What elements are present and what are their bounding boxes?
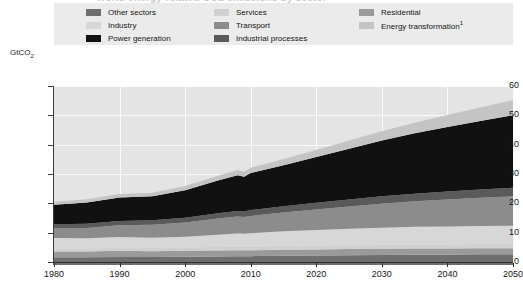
y-tick-label-10: 10 bbox=[475, 227, 519, 237]
x-tick-label-2040: 2040 bbox=[437, 269, 457, 279]
x-tick-2000 bbox=[185, 263, 186, 267]
y-tick-20 bbox=[48, 203, 54, 204]
y-tick-40 bbox=[48, 145, 54, 146]
legend-item-industrial_processes[interactable]: Industrial processes bbox=[214, 32, 307, 45]
legend-column-2: ServicesTransportIndustrial processes bbox=[214, 6, 307, 45]
y-tick-label-60: 60 bbox=[475, 80, 519, 90]
legend-item-residential[interactable]: Residential bbox=[359, 6, 463, 19]
legend-label-services: Services bbox=[236, 8, 267, 17]
legend-item-power_generation[interactable]: Power generation bbox=[86, 32, 171, 45]
y-tick-30 bbox=[48, 174, 54, 175]
y-tick-label-20: 20 bbox=[475, 197, 519, 207]
legend-item-energy_transformation[interactable]: Energy transformation1 bbox=[359, 19, 463, 32]
x-tick-2010 bbox=[251, 263, 252, 267]
legend-label-power_generation: Power generation bbox=[108, 34, 171, 43]
legend-swatch-transport bbox=[214, 22, 229, 29]
legend-label-residential: Residential bbox=[381, 8, 421, 17]
y-tick-10 bbox=[48, 233, 54, 234]
x-tick-label-2050: 2050 bbox=[503, 269, 523, 279]
y-tick-label-40: 40 bbox=[475, 139, 519, 149]
x-tick-label-2020: 2020 bbox=[306, 269, 326, 279]
y-axis-title-subscript: 2 bbox=[30, 53, 33, 59]
legend-swatch-residential bbox=[359, 9, 374, 16]
legend-label-other_sectors: Other sectors bbox=[108, 8, 156, 17]
y-tick-label-50: 50 bbox=[475, 109, 519, 119]
chart-legend: Other sectorsIndustryPower generation Se… bbox=[54, 3, 513, 45]
legend-label-energy_transformation: Energy transformation1 bbox=[381, 19, 463, 31]
legend-item-services[interactable]: Services bbox=[214, 6, 307, 19]
x-tick-label-2000: 2000 bbox=[175, 269, 195, 279]
x-tick-label-1980: 1980 bbox=[44, 269, 64, 279]
legend-item-transport[interactable]: Transport bbox=[214, 19, 307, 32]
stacked-area-series bbox=[54, 86, 513, 262]
y-tick-label-30: 30 bbox=[475, 168, 519, 178]
x-tick-2030 bbox=[382, 263, 383, 267]
legend-column-3: ResidentialEnergy transformation1 bbox=[359, 6, 463, 32]
legend-item-other_sectors[interactable]: Other sectors bbox=[86, 6, 171, 19]
x-tick-label-2030: 2030 bbox=[372, 269, 392, 279]
y-tick-50 bbox=[48, 115, 54, 116]
legend-swatch-industry bbox=[86, 22, 101, 29]
x-tick-1980 bbox=[54, 263, 55, 267]
legend-swatch-industrial_processes bbox=[214, 35, 229, 42]
x-tick-2020 bbox=[316, 263, 317, 267]
x-tick-label-2010: 2010 bbox=[241, 269, 261, 279]
legend-label-industrial_processes: Industrial processes bbox=[236, 34, 307, 43]
x-tick-1990 bbox=[120, 263, 121, 267]
legend-column-1: Other sectorsIndustryPower generation bbox=[86, 6, 171, 45]
plot-area: www.iea.org bbox=[54, 86, 513, 262]
legend-swatch-energy_transformation bbox=[359, 22, 374, 29]
x-tick-2040 bbox=[447, 263, 448, 267]
legend-swatch-power_generation bbox=[86, 35, 101, 42]
x-tick-label-1990: 1990 bbox=[110, 269, 130, 279]
legend-item-industry[interactable]: Industry bbox=[86, 19, 171, 32]
legend-footnote-marker-energy_transformation: 1 bbox=[460, 20, 463, 26]
x-tick-2050 bbox=[513, 263, 514, 267]
legend-label-industry: Industry bbox=[108, 21, 136, 30]
y-axis-title: GtCO2 bbox=[10, 48, 34, 59]
legend-label-transport: Transport bbox=[236, 21, 270, 30]
y-axis-title-text: GtCO bbox=[10, 48, 30, 57]
y-tick-60 bbox=[48, 86, 54, 87]
x-axis-line bbox=[53, 262, 513, 265]
legend-swatch-services bbox=[214, 9, 229, 16]
legend-swatch-other_sectors bbox=[86, 9, 101, 16]
